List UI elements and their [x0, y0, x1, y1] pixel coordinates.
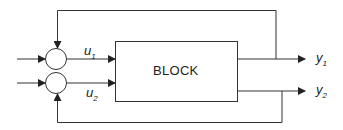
- summing-junction-1: [46, 49, 67, 70]
- feedback-block-diagram: BLOCK u1 u2 y1 y2: [0, 0, 343, 130]
- block-label: BLOCK: [153, 63, 199, 78]
- y1-label: y1: [316, 50, 327, 68]
- u2-label: u2: [86, 85, 98, 103]
- summing-junction-2: [46, 73, 67, 94]
- y2-label: y2: [316, 82, 327, 100]
- u1-label: u1: [84, 43, 96, 61]
